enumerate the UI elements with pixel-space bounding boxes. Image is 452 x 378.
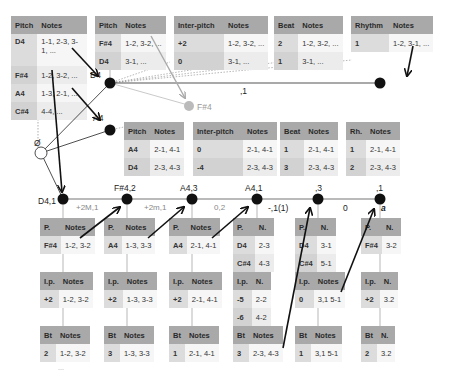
- chain-3-pitch-table: P.N. D42-3 C#44-3: [233, 218, 274, 272]
- cell-value: 1-2, 3-2: [56, 344, 90, 362]
- col-header: N.: [317, 218, 336, 236]
- col-header: N.: [255, 218, 274, 236]
- cell-key: 1: [346, 140, 366, 158]
- cell-value: 2-1, 4-1: [304, 140, 338, 158]
- cell-value: 4-4, ...: [37, 102, 87, 120]
- cell-value: 3,1 5-1: [314, 290, 345, 308]
- chain-node-label-3: A4,1: [245, 183, 263, 193]
- cell-value: 2-1, 4-1: [185, 344, 219, 362]
- edge-root-a4: [41, 130, 110, 153]
- col-header: Notes: [59, 272, 93, 290]
- cell-value: 2-3, 4-3: [150, 158, 184, 176]
- cell-value: 4-2: [252, 308, 271, 326]
- cell-key: F#4: [361, 236, 382, 254]
- chain-node-3: [252, 194, 263, 205]
- cell-value: 2-3, 4-3: [366, 158, 400, 176]
- col-header: Notes: [224, 16, 268, 34]
- cell-key: A4: [104, 236, 122, 254]
- cell-key: 2: [361, 344, 377, 362]
- chain-0-pitch-table: P.Notes F#41-2, 3-2: [40, 218, 95, 254]
- chain-2-beat-table: BtNotes 12-1, 4-1: [169, 326, 219, 362]
- end-marker-label: a: [381, 203, 386, 213]
- chain-edge-label-4: 0: [343, 203, 348, 213]
- cell-key: 2: [274, 34, 298, 52]
- cell-key: +2: [174, 34, 224, 52]
- cell-value: 1-2, 3-2: [59, 290, 93, 308]
- col-header: I.p.: [361, 272, 380, 290]
- cell-value: 1-3, 2-1, ...: [37, 84, 87, 102]
- col-header: I.p.: [169, 272, 188, 290]
- col-header: Notes: [188, 272, 222, 290]
- pitch-table-d4: PitchNotes F#41-2, 3-2, ... D43-1, ...: [95, 16, 166, 70]
- cell-key: 0: [193, 140, 243, 158]
- cell-key: D4: [11, 34, 37, 66]
- root-label: Ø: [34, 138, 41, 148]
- col-header: I.p.: [295, 272, 314, 290]
- cell-value: 4-3: [255, 254, 274, 272]
- cell-key: 0: [295, 290, 314, 308]
- cell-key: C#4: [11, 102, 37, 120]
- col-header: N.: [382, 218, 401, 236]
- col-header: I.p.: [233, 272, 252, 290]
- cell-value: 2-3: [255, 236, 274, 254]
- col-header: Notes: [389, 16, 433, 34]
- cell-value: 1-2, 3-2, ...: [37, 66, 87, 84]
- cell-value: 1-2, 3-2: [61, 236, 95, 254]
- cell-key: +2: [169, 290, 188, 308]
- cell-value: 2-3, 4-3: [243, 158, 277, 176]
- cell-value: 3,1 5-1: [311, 344, 342, 362]
- chain-edge-label-0: +2M,1: [76, 203, 98, 212]
- cell-key: 1: [274, 52, 298, 70]
- col-header: Rh.: [346, 122, 366, 140]
- col-header: Notes: [243, 122, 277, 140]
- col-header: N.: [380, 272, 398, 290]
- cell-value: 2-1, 4-1: [366, 140, 400, 158]
- chain-3-beat-table: BtNotes 32-3, 4-3: [233, 326, 283, 362]
- cell-key: A4: [169, 236, 187, 254]
- col-header: P.: [361, 218, 382, 236]
- chain-node-label-2: A4,3: [180, 183, 198, 193]
- d4-node-label: D4: [90, 70, 101, 80]
- cell-key: 1: [295, 344, 311, 362]
- col-header: I.p.: [104, 272, 123, 290]
- root-node: [35, 147, 47, 159]
- chain-node-1: [122, 194, 133, 205]
- beat-table-a4: BeatNotes 12-1, 4-1 32-3, 4-3: [280, 122, 338, 176]
- cell-value: 3.2: [380, 290, 398, 308]
- cell-value: 5-1: [317, 254, 336, 272]
- chain-edge-label-3: -,1(1): [268, 203, 288, 213]
- col-header: Notes: [150, 122, 184, 140]
- rhythm-table-d4: RhythmNotes 11-2, 3-1, ...: [351, 16, 433, 52]
- col-header: N.: [377, 326, 395, 344]
- chain-0-beat-table: BtNotes 21-2, 3-2: [40, 326, 90, 362]
- col-header: N.: [252, 272, 271, 290]
- chain-node-0: [58, 194, 69, 205]
- col-header: Notes: [298, 16, 342, 34]
- cell-value: 1-2, 3-2, ...: [298, 34, 342, 52]
- cell-key: -6: [233, 308, 252, 326]
- col-header: P.: [40, 218, 61, 236]
- col-header: P.: [295, 218, 317, 236]
- chain-node-label-4: ,3: [315, 183, 322, 193]
- col-header: Bt: [361, 326, 377, 344]
- col-header: Notes: [121, 16, 165, 34]
- cell-value: 1-2, 3-1, ...: [389, 34, 433, 52]
- col-header: I.p.: [40, 272, 59, 290]
- chain-edge-label-2: 0,2: [214, 203, 225, 212]
- a4-node: [105, 125, 116, 136]
- cell-value: 3-1, ...: [298, 52, 342, 70]
- chain-node-label-0: D4,1: [38, 196, 56, 206]
- col-header: Bt: [104, 326, 120, 344]
- cell-value: 1-2, 3-2, ...: [121, 34, 165, 52]
- chain-node-4: [313, 194, 324, 205]
- chain-3-interpitch-table: I.p.N. -52-2 -64-2: [233, 272, 271, 326]
- cell-value: 2-1, 4-1: [150, 140, 184, 158]
- cell-key: 3: [280, 158, 304, 176]
- col-header: Notes: [187, 218, 221, 236]
- cell-key: 2: [40, 344, 56, 362]
- cell-value: 2-1, 4-1: [187, 236, 221, 254]
- ellipsis: ...: [58, 364, 64, 371]
- cell-value: 3.2: [377, 344, 395, 362]
- col-header: Notes: [56, 326, 90, 344]
- cell-key: F#4: [95, 34, 121, 52]
